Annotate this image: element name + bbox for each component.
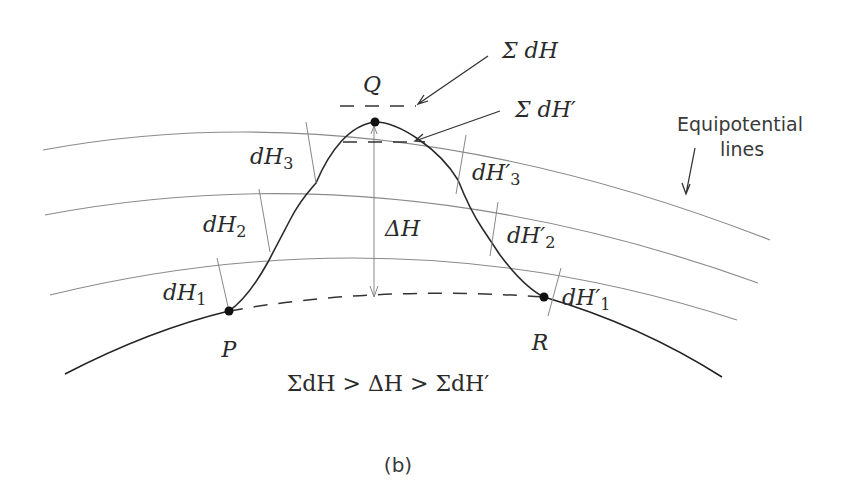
sum-dH-callout-arrow (418, 56, 488, 104)
label-sum-dH: Σ dH (501, 38, 559, 63)
label-delta-H: ΔH (384, 216, 421, 241)
point-Q (371, 118, 380, 127)
label-Q: Q (363, 72, 381, 97)
label-dH2: dH2 (203, 212, 246, 241)
point-R (540, 293, 549, 302)
dH3-segment (306, 122, 316, 183)
equipotential-line-lower (50, 258, 737, 320)
label-R: R (531, 330, 549, 355)
point-P (225, 307, 234, 316)
dH1-segment (217, 258, 229, 311)
reference-surface-left (65, 311, 229, 374)
label-lines: lines (720, 138, 764, 160)
dH2-prime-segment (490, 202, 498, 256)
sum-dH-prime-callout-arrow (415, 111, 500, 142)
dH2-segment (259, 189, 270, 252)
equipotential-callout-arrow (682, 148, 695, 194)
relation-formula: ΣdH > ΔH > ΣdH′ (287, 371, 490, 396)
label-equipotential: Equipotential (677, 113, 803, 135)
label-sum-dH-prime: Σ dH′ (514, 97, 576, 122)
reference-surface-dashed (229, 293, 544, 311)
label-dH1: dH1 (163, 280, 206, 309)
dH3-prime-segment (456, 135, 466, 194)
label-dH1-prime: dH′1 (562, 285, 610, 314)
label-dH3: dH3 (250, 144, 293, 173)
label-dH3-prime: dH′3 (472, 160, 520, 189)
label-P: P (221, 337, 238, 362)
label-dH2-prime: dH′2 (507, 223, 555, 252)
equipotential-diagram: Q P R Σ dH Σ dH′ Equipotential lines ΔH … (0, 0, 854, 485)
figure-caption: (b) (384, 453, 412, 477)
